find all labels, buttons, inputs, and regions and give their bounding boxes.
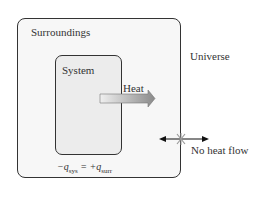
heat-equation: −qsys = +qsurr xyxy=(57,161,112,175)
formula-equals: = xyxy=(78,161,90,172)
diagram-graphics xyxy=(0,0,259,201)
heat-arrow-icon xyxy=(100,90,155,107)
formula-lhs-sub: sys xyxy=(69,167,78,175)
formula-rhs: +q xyxy=(89,161,101,172)
no-heat-flow-arrow-icon xyxy=(159,136,209,142)
formula-rhs-sub: surr xyxy=(101,167,112,175)
formula-lhs: −q xyxy=(57,161,69,172)
